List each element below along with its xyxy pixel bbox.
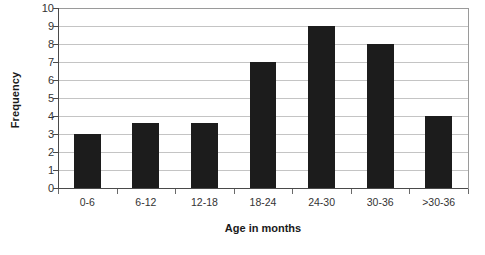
y-axis-tick-mark bbox=[53, 26, 58, 27]
y-axis-tick-mark bbox=[53, 152, 58, 153]
x-axis-tick-label: 12-18 bbox=[191, 196, 218, 208]
x-axis-tick-mark bbox=[117, 189, 118, 194]
bar bbox=[425, 116, 452, 188]
x-axis-tick-label: 18-24 bbox=[250, 196, 277, 208]
y-axis-tick-label: 1 bbox=[30, 165, 54, 176]
x-axis-tick-mark bbox=[58, 189, 59, 194]
y-axis-tick-mark bbox=[53, 170, 58, 171]
bars-layer bbox=[58, 8, 468, 188]
y-axis-tick-mark bbox=[53, 98, 58, 99]
y-axis-tick-label: 9 bbox=[30, 21, 54, 32]
y-axis-tick-mark bbox=[53, 80, 58, 81]
y-axis-tick-label: 3 bbox=[30, 129, 54, 140]
y-axis-tick-label: 7 bbox=[30, 57, 54, 68]
bar bbox=[191, 123, 218, 188]
x-axis-tick-mark bbox=[292, 189, 293, 194]
x-axis-line bbox=[58, 188, 469, 189]
x-axis-title: Age in months bbox=[58, 222, 468, 234]
y-axis-title: Frequency bbox=[0, 0, 30, 200]
y-axis-tick-label: 4 bbox=[30, 111, 54, 122]
x-axis-tick-label: 24-30 bbox=[308, 196, 335, 208]
y-axis-tick-label: 5 bbox=[30, 93, 54, 104]
y-axis-tick-mark bbox=[53, 116, 58, 117]
x-axis-tick-mark bbox=[234, 189, 235, 194]
bar bbox=[74, 134, 101, 188]
y-axis-tick-mark bbox=[53, 44, 58, 45]
y-axis-tick-label: 2 bbox=[30, 147, 54, 158]
y-axis-line bbox=[58, 8, 59, 189]
x-axis-tick-mark bbox=[468, 189, 469, 194]
y-axis-tick-mark bbox=[53, 62, 58, 63]
x-axis-tick-mark bbox=[175, 189, 176, 194]
x-axis-tick-label: >30-36 bbox=[422, 196, 455, 208]
y-axis-tick-mark bbox=[53, 8, 58, 9]
y-axis-tick-mark bbox=[53, 134, 58, 135]
plot-right-border bbox=[468, 8, 469, 189]
x-axis-tick-label: 6-12 bbox=[135, 196, 156, 208]
x-axis-tick-label: 30-36 bbox=[367, 196, 394, 208]
x-axis-tick-label: 0-6 bbox=[80, 196, 95, 208]
y-axis-tick-label: 6 bbox=[30, 75, 54, 86]
y-axis-title-label: Frequency bbox=[9, 72, 21, 129]
bar bbox=[308, 26, 335, 188]
y-axis-tick-label: 8 bbox=[30, 39, 54, 50]
y-axis-tick-label: 0 bbox=[30, 183, 54, 194]
y-axis-tick-labels: 109876543210 bbox=[30, 8, 54, 188]
bar bbox=[132, 123, 159, 188]
bar bbox=[367, 44, 394, 188]
bar-chart: Frequency 109876543210 0-66-1212-1818-24… bbox=[0, 0, 485, 255]
y-axis-tick-label: 10 bbox=[30, 3, 54, 14]
x-axis-tick-mark bbox=[351, 189, 352, 194]
plot-area bbox=[58, 8, 468, 188]
bar bbox=[250, 62, 277, 188]
x-axis-tick-mark bbox=[409, 189, 410, 194]
x-axis-tick-labels: 0-66-1212-1818-2424-3030-36>30-36 bbox=[58, 196, 468, 212]
